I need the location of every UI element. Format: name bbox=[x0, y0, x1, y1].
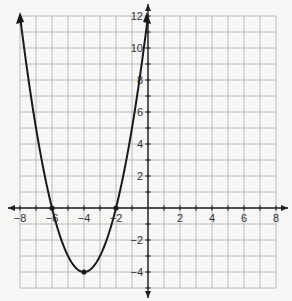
y-tick-label: 4 bbox=[137, 138, 143, 150]
parabola-chart: −8−6−4−22468−4−224681012 bbox=[0, 0, 292, 301]
y-tick-label: 12 bbox=[131, 10, 143, 22]
y-tick-label: 10 bbox=[131, 42, 143, 54]
x-intercept-point bbox=[49, 205, 54, 210]
curve-left-arrow-icon bbox=[16, 12, 24, 24]
y-axis-down-arrow-icon bbox=[145, 291, 151, 298]
x-axis-left-arrow-icon bbox=[8, 205, 15, 211]
x-tick-label: 8 bbox=[273, 212, 279, 224]
y-axis-up-arrow-icon bbox=[145, 4, 151, 11]
x-intercept-point bbox=[113, 205, 118, 210]
x-tick-label: 2 bbox=[177, 212, 183, 224]
y-tick-label: −2 bbox=[130, 234, 143, 246]
x-tick-label: 4 bbox=[209, 212, 215, 224]
y-tick-label: 2 bbox=[137, 170, 143, 182]
x-tick-label: −8 bbox=[14, 212, 27, 224]
vertex-point bbox=[81, 269, 86, 274]
x-tick-label: −4 bbox=[78, 212, 91, 224]
y-tick-label: 6 bbox=[137, 106, 143, 118]
x-axis-right-arrow-icon bbox=[281, 205, 288, 211]
curve-right-arrow-icon bbox=[143, 12, 151, 24]
y-tick-label: −4 bbox=[130, 266, 143, 278]
x-tick-label: 6 bbox=[241, 212, 247, 224]
